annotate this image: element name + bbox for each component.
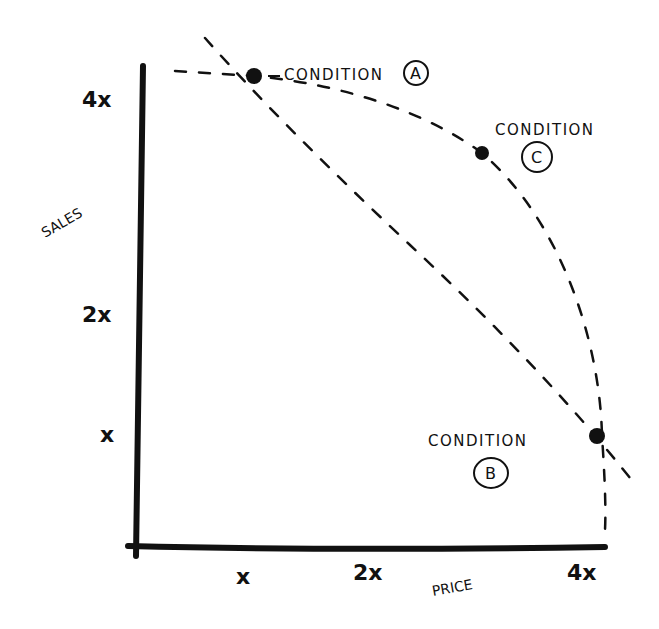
demand-curve-linear (205, 38, 630, 478)
y-tick-2x: 2x (82, 302, 112, 327)
condition-c-letter: C (531, 148, 542, 167)
demand-curve-concave (175, 71, 605, 530)
x-axis-line (128, 546, 605, 549)
condition-a-letter: A (410, 64, 421, 83)
point-condition-b (589, 428, 605, 444)
x-tick-x: x (236, 564, 250, 589)
condition-c-label: CONDITION (495, 121, 595, 139)
point-condition-a (246, 68, 262, 84)
y-axis-title: SALES (39, 205, 85, 241)
condition-a-label: CONDITION (284, 66, 384, 84)
y-axis-line (136, 66, 143, 556)
y-tick-4x: 4x (82, 87, 112, 112)
condition-b-label: CONDITION (428, 432, 528, 450)
sales-price-diagram: CONDITION A CONDITION C CONDITION B 4x 2… (0, 0, 659, 629)
condition-b-letter: B (485, 464, 496, 483)
point-condition-c (475, 146, 489, 160)
y-tick-x: x (100, 422, 114, 447)
x-axis-title: PRICE (431, 576, 474, 599)
x-tick-2x: 2x (353, 560, 383, 585)
x-tick-4x: 4x (567, 560, 597, 585)
